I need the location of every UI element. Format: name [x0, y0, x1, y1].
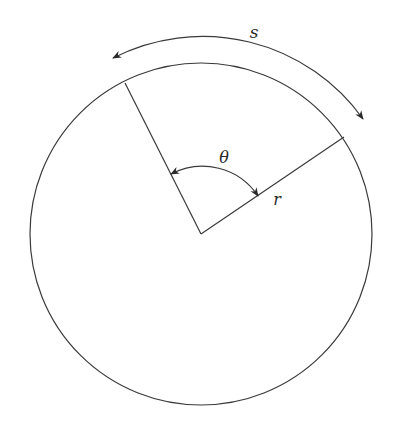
radius-line-left: [125, 83, 201, 234]
diagram-canvas: s θ r: [0, 0, 396, 434]
angle-arc-arrow: [171, 166, 258, 196]
radius-label: r: [273, 190, 282, 209]
arc-length-label: s: [250, 22, 259, 42]
angle-label: θ: [219, 148, 229, 167]
arc-length-arrow: [113, 36, 363, 119]
circle-diagram: s θ r: [0, 0, 396, 434]
